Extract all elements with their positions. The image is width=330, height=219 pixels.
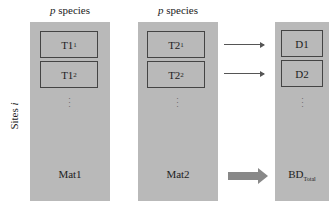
header-text: species — [55, 4, 90, 16]
d1-box: D1 — [281, 30, 323, 57]
box-sub: 1 — [180, 41, 184, 49]
bd-total-label: BDTotal — [275, 168, 329, 182]
arrow-to-d1 — [224, 44, 264, 45]
box-label: T2 — [168, 39, 180, 51]
box-label: T2 — [168, 69, 180, 81]
box-label: T1 — [61, 39, 73, 51]
mat1-ellipsis: ··· — [68, 96, 70, 108]
fat-arrow-shaft — [228, 172, 258, 180]
arrow-to-d2 — [224, 73, 264, 74]
sites-axis-text: Sites — [8, 105, 20, 129]
mat1-header: p species — [30, 4, 110, 16]
box-label: T1 — [61, 69, 73, 81]
mat1-label: Mat1 — [30, 168, 110, 180]
mat2-label: Mat2 — [138, 168, 218, 180]
bd-ellipsis: ··· — [301, 96, 303, 108]
box-sub: 2 — [73, 71, 77, 79]
bd-sub: Total — [304, 176, 316, 182]
t2-1-box: T21 — [147, 31, 205, 58]
sites-axis-var: i — [8, 102, 20, 105]
sites-axis-label: Sites i — [8, 96, 20, 136]
box-sub: 1 — [73, 41, 77, 49]
box-label: D1 — [295, 38, 308, 50]
mat2-header: p species — [138, 4, 218, 16]
header-text: species — [163, 4, 198, 16]
box-sub: 2 — [180, 71, 184, 79]
t1-2-box: T12 — [40, 61, 98, 88]
fat-arrow — [228, 168, 268, 184]
fat-arrow-head — [258, 168, 268, 184]
mat2-ellipsis: ··· — [176, 96, 178, 108]
t2-2-box: T22 — [147, 61, 205, 88]
d2-box: D2 — [281, 60, 323, 87]
bd-label: BD — [288, 168, 303, 180]
t1-1-box: T11 — [40, 31, 98, 58]
box-label: D2 — [295, 68, 308, 80]
